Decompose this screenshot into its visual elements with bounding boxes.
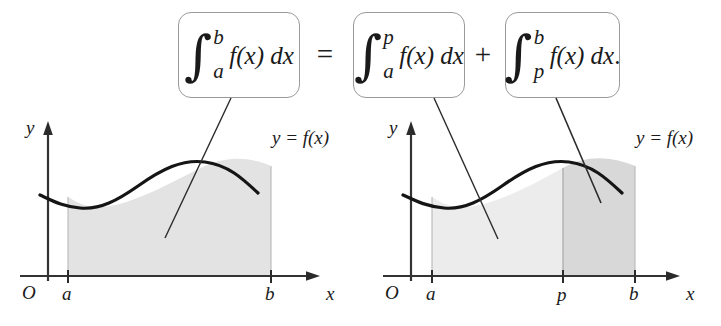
integral-lower-limit: a — [383, 61, 394, 82]
curve-label: y = f(x) — [634, 127, 693, 149]
tick-label-a: a — [62, 283, 72, 304]
y-axis-arrowhead — [43, 121, 53, 135]
integrand-text: f(x) dx — [550, 42, 615, 69]
integrand: f(x) dx — [229, 42, 294, 70]
x-axis-label: x — [325, 283, 335, 304]
integral-box-ap: ∫ p a f(x) dx — [353, 12, 465, 98]
y-axis-label: y — [24, 117, 35, 138]
x-axis-arrowhead — [306, 271, 320, 281]
integrand: f(x) dx. — [550, 42, 621, 70]
integral-expression-ab: ∫ b a f(x) dx — [184, 29, 294, 81]
shaded-region-ap — [432, 168, 563, 276]
equals-operator: = — [312, 40, 338, 69]
integral-upper-limit: b — [213, 27, 224, 48]
tick-label-p: p — [555, 284, 567, 305]
tick-label-b: b — [265, 283, 275, 304]
tick-label-a: a — [426, 283, 436, 304]
origin-label: O — [385, 282, 399, 303]
integral-sign-icon: ∫ — [354, 37, 382, 76]
integral-upper-limit: p — [383, 27, 394, 48]
origin-label: O — [22, 282, 36, 303]
tick-label-b: b — [629, 283, 639, 304]
x-axis-arrowhead — [666, 271, 680, 281]
figure-canvas: ∫ b a f(x) dx = ∫ p a f(x) dx + ∫ b p f( — [0, 0, 721, 326]
graph-right: y x O a p b y = f(x) — [360, 96, 721, 326]
integrand-period: . — [614, 42, 620, 69]
integral-upper-limit: b — [534, 27, 545, 48]
graph-left: y x O a b y = f(x) — [0, 96, 360, 326]
integral-sign-icon: ∫ — [184, 37, 212, 76]
integral-expression-ap: ∫ p a f(x) dx — [354, 29, 464, 81]
integrand: f(x) dx — [399, 42, 464, 70]
integral-sign-icon: ∫ — [505, 37, 533, 76]
curve-label: y = f(x) — [270, 127, 329, 149]
x-axis-label: x — [685, 283, 695, 304]
integral-lower-limit: p — [534, 61, 545, 82]
plus-operator: + — [470, 40, 496, 69]
integral-expression-pb: ∫ b p f(x) dx. — [505, 29, 621, 81]
y-axis-arrowhead — [406, 121, 416, 135]
y-axis-label: y — [387, 117, 398, 138]
integral-box-pb: ∫ b p f(x) dx. — [505, 12, 620, 98]
shaded-region-pb — [563, 158, 635, 276]
integral-lower-limit: a — [213, 61, 224, 82]
integral-box-ab: ∫ b a f(x) dx — [178, 12, 300, 98]
